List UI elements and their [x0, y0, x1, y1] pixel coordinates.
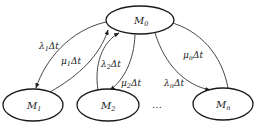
- label-lambda1: λ1Δt: [38, 41, 59, 53]
- node-mn: Mn: [193, 88, 253, 120]
- label-lambda2: λ2Δt: [100, 59, 121, 71]
- node-m0: M0: [106, 6, 174, 34]
- label-mu2: μ2Δt: [121, 78, 141, 90]
- node-m1: M1: [3, 89, 63, 121]
- label-mun: μnΔt: [183, 50, 204, 62]
- ellipsis: …: [152, 99, 162, 110]
- label-lambdan: λnΔt: [163, 78, 184, 90]
- state-transition-diagram: M0 M1 M2 Mn … λ1Δt μ1Δt λ2Δt μ2Δt λnΔt μ…: [0, 0, 256, 131]
- label-mu1: μ1Δt: [61, 56, 81, 68]
- node-m2: M2: [77, 89, 139, 121]
